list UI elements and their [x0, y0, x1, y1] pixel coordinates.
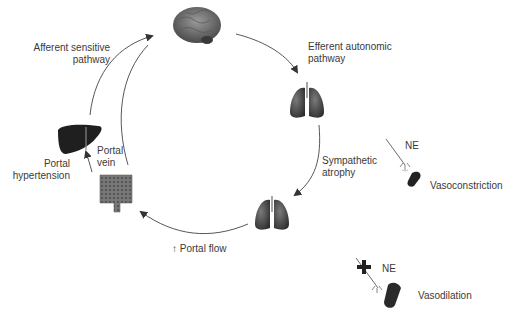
vasoconstriction-label: Vasoconstriction — [430, 180, 503, 192]
lungs-top-icon — [290, 82, 324, 118]
portal-vein-label: Portal vein — [97, 145, 123, 169]
vasodilation-nerve-icon — [356, 258, 382, 293]
portal-htn-line2: hypertension — [6, 170, 70, 182]
ne-top-label: NE — [405, 140, 419, 152]
sympathetic-line2: atrophy — [322, 167, 377, 179]
portal-vein-line2: vein — [97, 157, 123, 169]
intestine-to-liver-arrow — [86, 152, 92, 172]
portal-vein-line1: Portal — [97, 145, 123, 157]
sympathetic-atrophy-arrow — [295, 125, 320, 195]
efferent-pathway-label: Efferent autonomic pathway — [308, 41, 392, 65]
portal-hypertension-label: Portal hypertension — [6, 158, 70, 182]
afferent-line2: pathway — [28, 54, 110, 66]
afferent-line1: Afferent sensitive — [28, 42, 110, 54]
intestine-icon — [100, 175, 132, 212]
portal-htn-line1: Portal — [6, 158, 70, 170]
efferent-line1: Efferent autonomic — [308, 41, 392, 53]
afferent-pathway-label: Afferent sensitive pathway — [28, 42, 110, 66]
sympathetic-atrophy-label: Sympathetic atrophy — [322, 155, 377, 179]
portal-flow-label: ↑ Portal flow — [172, 243, 226, 255]
ne-bottom-label: NE — [382, 263, 396, 275]
vasodilation-label: Vasodilation — [418, 290, 472, 302]
brain-icon — [173, 7, 221, 44]
sympathetic-line1: Sympathetic — [322, 155, 377, 167]
lungs-bottom-icon — [255, 196, 289, 230]
dilated-vessel-icon — [384, 283, 401, 308]
liver-icon — [58, 125, 102, 154]
portal-flow-arrow — [141, 212, 248, 234]
portal-vein-curve — [121, 45, 148, 165]
efferent-line2: pathway — [308, 53, 392, 65]
efferent-pathway-arrow — [236, 34, 297, 72]
constricted-vessel-icon — [407, 172, 420, 187]
